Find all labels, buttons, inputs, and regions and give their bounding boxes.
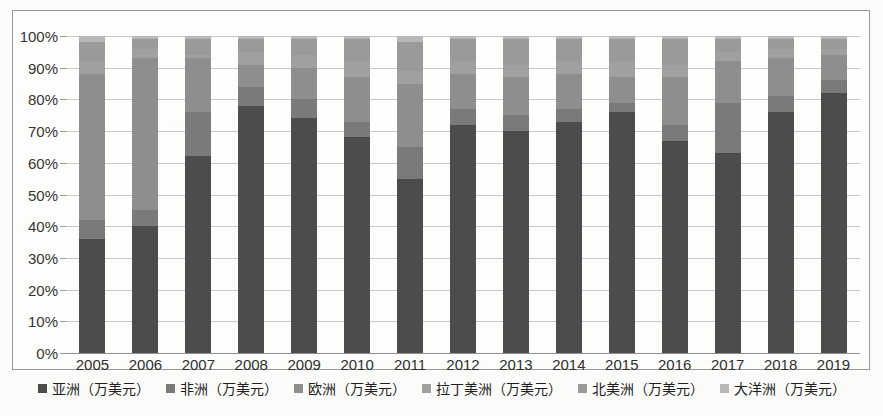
chart-legend: 亚洲（万美元）非洲（万美元）欧洲（万美元）拉丁美洲（万美元）北美洲（万美元）大洋… — [0, 378, 883, 398]
bar-segment-2013-s3 — [503, 65, 529, 78]
x-axis-labels: 2005200620072008200920102011201220132014… — [66, 356, 860, 378]
bar-segment-2014-s0 — [556, 122, 582, 353]
bar-segment-2008-s0 — [238, 106, 264, 353]
bar-segment-2010-s0 — [344, 137, 370, 353]
legend-label-1: 非洲（万美元） — [180, 378, 278, 398]
legend-label-3: 拉丁美洲（万美元） — [436, 378, 562, 398]
bar-2019[interactable] — [821, 36, 847, 353]
bar-segment-2012-s1 — [450, 109, 476, 125]
bar-2011[interactable] — [397, 36, 423, 353]
bar-2010[interactable] — [344, 36, 370, 353]
bar-2005[interactable] — [79, 36, 105, 353]
bar-segment-2009-s2 — [291, 68, 317, 100]
bar-segment-2007-s1 — [185, 112, 211, 156]
bar-segment-2018-s4 — [768, 39, 794, 49]
x-tick-label-2019: 2019 — [817, 356, 850, 373]
bar-segment-2014-s4 — [556, 39, 582, 61]
y-tick-label-90: 90% — [0, 59, 58, 76]
y-tick-label-10: 10% — [0, 313, 58, 330]
x-tick-label-2015: 2015 — [605, 356, 638, 373]
bar-segment-2018-s0 — [768, 112, 794, 353]
bar-segment-2015-s3 — [609, 61, 635, 77]
bar-2018[interactable] — [768, 36, 794, 353]
bar-segment-2006-s3 — [132, 49, 158, 59]
bar-segment-2019-s1 — [821, 80, 847, 93]
x-tick-label-2006: 2006 — [129, 356, 162, 373]
bar-segment-2017-s1 — [715, 103, 741, 154]
bar-segment-2015-s4 — [609, 39, 635, 61]
bar-segment-2009-s0 — [291, 118, 317, 353]
y-tick-mark-10 — [60, 321, 66, 322]
bar-segment-2007-s2 — [185, 58, 211, 112]
bar-segment-2010-s4 — [344, 39, 370, 61]
bar-2016[interactable] — [662, 36, 688, 353]
bar-segment-2011-s3 — [397, 71, 423, 84]
y-tick-label-20: 20% — [0, 281, 58, 298]
bar-segment-2013-s2 — [503, 77, 529, 115]
gridline-0 — [66, 353, 860, 354]
legend-swatch-icon-4 — [578, 384, 587, 393]
y-tick-label-70: 70% — [0, 123, 58, 140]
chart-container: 0%10%20%30%40%50%60%70%80%90%100% 200520… — [0, 0, 883, 416]
bar-2006[interactable] — [132, 36, 158, 353]
bar-segment-2008-s1 — [238, 87, 264, 106]
bar-segment-2015-s2 — [609, 77, 635, 102]
x-tick-label-2018: 2018 — [764, 356, 797, 373]
bar-segment-2019-s0 — [821, 93, 847, 353]
bar-segment-2013-s4 — [503, 39, 529, 64]
y-tick-label-40: 40% — [0, 218, 58, 235]
x-tick-label-2014: 2014 — [552, 356, 585, 373]
bar-segment-2009-s1 — [291, 99, 317, 118]
x-tick-label-2017: 2017 — [711, 356, 744, 373]
bar-segment-2005-s2 — [79, 74, 105, 220]
bar-segment-2005-s0 — [79, 239, 105, 353]
y-tick-mark-100 — [60, 36, 66, 37]
bar-segment-2007-s4 — [185, 39, 211, 55]
bar-2014[interactable] — [556, 36, 582, 353]
y-tick-label-100: 100% — [0, 28, 58, 45]
x-tick-label-2005: 2005 — [76, 356, 109, 373]
bar-2009[interactable] — [291, 36, 317, 353]
bar-2007[interactable] — [185, 36, 211, 353]
bar-segment-2012-s0 — [450, 125, 476, 353]
legend-label-2: 欧洲（万美元） — [308, 378, 406, 398]
legend-item-4[interactable]: 北美洲（万美元） — [578, 378, 704, 398]
legend-item-3[interactable]: 拉丁美洲（万美元） — [422, 378, 562, 398]
bar-2017[interactable] — [715, 36, 741, 353]
y-tick-label-30: 30% — [0, 249, 58, 266]
bar-segment-2010-s2 — [344, 77, 370, 121]
legend-item-5[interactable]: 大洋洲（万美元） — [720, 378, 846, 398]
y-tick-label-50: 50% — [0, 186, 58, 203]
bar-segment-2008-s2 — [238, 65, 264, 87]
bar-segment-2012-s4 — [450, 39, 476, 61]
bar-segment-2016-s0 — [662, 141, 688, 353]
x-tick-label-2011: 2011 — [394, 356, 426, 373]
legend-item-0[interactable]: 亚洲（万美元） — [38, 378, 150, 398]
bar-2008[interactable] — [238, 36, 264, 353]
bar-2013[interactable] — [503, 36, 529, 353]
bar-segment-2012-s2 — [450, 74, 476, 109]
bar-2012[interactable] — [450, 36, 476, 353]
bar-segment-2010-s3 — [344, 61, 370, 77]
y-tick-label-60: 60% — [0, 154, 58, 171]
bar-2015[interactable] — [609, 36, 635, 353]
bar-segment-2016-s1 — [662, 125, 688, 141]
legend-label-4: 北美洲（万美元） — [592, 378, 704, 398]
bar-segment-2006-s1 — [132, 210, 158, 226]
y-tick-mark-80 — [60, 99, 66, 100]
y-tick-mark-60 — [60, 163, 66, 164]
y-tick-label-80: 80% — [0, 91, 58, 108]
bar-segment-2006-s4 — [132, 39, 158, 49]
x-tick-label-2007: 2007 — [182, 356, 215, 373]
legend-swatch-icon-3 — [422, 384, 431, 393]
bar-segment-2012-s3 — [450, 61, 476, 74]
legend-item-1[interactable]: 非洲（万美元） — [166, 378, 278, 398]
bar-segment-2017-s0 — [715, 153, 741, 353]
bar-segment-2013-s0 — [503, 131, 529, 353]
legend-item-2[interactable]: 欧洲（万美元） — [294, 378, 406, 398]
bar-segment-2019-s4 — [821, 39, 847, 49]
bar-segment-2016-s4 — [662, 39, 688, 64]
legend-swatch-icon-2 — [294, 384, 303, 393]
bar-segment-2005-s3 — [79, 61, 105, 74]
bar-segment-2014-s2 — [556, 74, 582, 109]
